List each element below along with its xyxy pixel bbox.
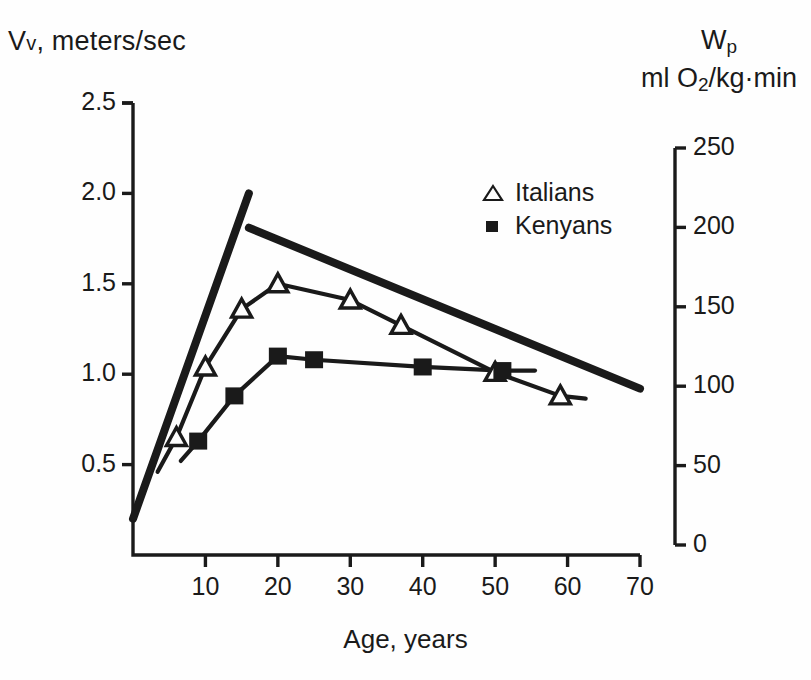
series-line-kenyans xyxy=(198,356,502,441)
data-point-marker-filled-square xyxy=(493,362,511,379)
data-point-marker-filled-square xyxy=(269,348,287,365)
plot-area xyxy=(0,0,811,680)
data-point-marker-filled-square xyxy=(414,358,432,375)
axis-spine-left-bottom xyxy=(133,103,640,555)
data-point-marker-filled-square xyxy=(225,387,243,404)
data-point-marker-open-triangle xyxy=(391,315,411,333)
series-line-envelope-rising xyxy=(133,193,249,518)
series-line-italians xyxy=(176,284,560,438)
data-series-layer xyxy=(133,193,640,518)
data-point-marker-filled-square xyxy=(305,351,323,368)
data-point-marker-open-triangle xyxy=(268,274,288,292)
data-point-marker-open-triangle xyxy=(166,427,186,445)
data-point-marker-filled-square xyxy=(189,433,207,450)
chart-figure: Vv, meters/sec Wpml O2/kg·min Age, years… xyxy=(0,0,811,680)
